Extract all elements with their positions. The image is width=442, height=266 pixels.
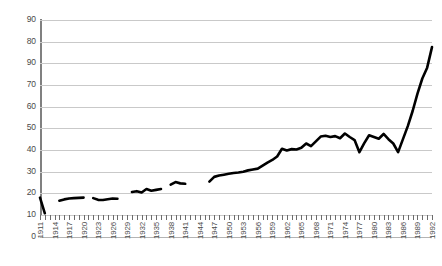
series-segment [209, 47, 432, 182]
y-axis-tick-label: 30 [0, 166, 36, 176]
x-axis-tick [413, 215, 414, 220]
x-axis-tick [427, 215, 428, 220]
x-axis-tick-label: 1989 [413, 222, 422, 239]
x-axis-tick [267, 215, 268, 220]
x-axis-tick [379, 215, 380, 220]
x-axis-tick [272, 215, 273, 220]
x-axis-tick [277, 215, 278, 220]
x-axis-tick [156, 215, 157, 220]
x-axis-tick [127, 215, 128, 220]
x-axis-tick [238, 215, 239, 220]
x-axis-tick-label: 1932 [138, 222, 147, 239]
x-axis-tick [432, 215, 433, 220]
x-axis-tick [117, 215, 118, 220]
x-axis-tick-label: 1917 [65, 222, 74, 239]
x-axis-tick [296, 215, 297, 220]
x-axis-tick [176, 215, 177, 220]
x-axis-tick [282, 215, 283, 220]
x-axis-tick [166, 215, 167, 220]
x-axis-tick [398, 215, 399, 220]
x-axis-tick [422, 215, 423, 220]
x-axis-tick-label: 1968 [312, 222, 321, 239]
x-axis-tick-label: 1983 [384, 222, 393, 239]
x-axis-tick [219, 215, 220, 220]
x-axis-tick [359, 215, 360, 220]
x-axis-tick-label: 1992 [428, 222, 437, 239]
x-axis-tick [205, 215, 206, 220]
x-axis-tick [384, 215, 385, 220]
x-axis-tick-label: 1911 [36, 222, 45, 238]
x-axis-tick [142, 215, 143, 220]
x-axis-tick-label: 1962 [283, 222, 292, 239]
x-axis-tick [180, 215, 181, 220]
x-axis-tick [50, 215, 51, 220]
x-axis-tick-label: 1947 [210, 222, 219, 239]
x-axis-tick [122, 215, 123, 220]
y-axis-tick-label: 0 [0, 231, 36, 241]
y-axis-tick-label: 90 [0, 57, 36, 67]
x-axis-tick [69, 215, 70, 220]
x-axis-tick [59, 215, 60, 220]
x-axis-tick [248, 215, 249, 220]
x-axis-tick [253, 215, 254, 220]
x-axis-tick [146, 215, 147, 220]
x-axis-tick-label: 1950 [225, 222, 234, 239]
x-axis-tick-label: 1944 [196, 222, 205, 239]
series-segment [40, 198, 45, 214]
x-axis-tick [45, 215, 46, 220]
series-segment [93, 198, 117, 200]
x-axis-tick [234, 215, 235, 220]
x-axis-tick [340, 215, 341, 220]
x-axis-tick-label: 1923 [94, 222, 103, 239]
x-axis-tick [350, 215, 351, 220]
x-axis-tick [345, 215, 346, 220]
y-axis-tick-label: 40 [0, 144, 36, 154]
x-axis-tick [151, 215, 152, 220]
x-axis-tick [321, 215, 322, 220]
x-axis-tick [79, 215, 80, 220]
y-axis-tick-label: 80 [0, 36, 36, 46]
x-axis-tick-label: 1956 [254, 222, 263, 239]
x-axis-tick [355, 215, 356, 220]
x-axis-tick [224, 215, 225, 220]
x-axis-tick [113, 215, 114, 220]
x-axis-tick [311, 215, 312, 220]
x-axis-tick [209, 215, 210, 220]
x-axis-tick-label: 1929 [123, 222, 132, 239]
x-axis-tick-label: 1953 [239, 222, 248, 239]
series-segment [132, 189, 161, 192]
x-axis-tick-label: 1935 [152, 222, 161, 239]
y-axis-tick-label: 70 [0, 79, 36, 89]
x-axis-tick [301, 215, 302, 220]
x-axis-tick [214, 215, 215, 220]
series-segment [59, 198, 83, 201]
x-axis-tick-label: 1938 [167, 222, 176, 239]
x-axis-tick [243, 215, 244, 220]
x-axis-tick [306, 215, 307, 220]
x-axis-tick [330, 215, 331, 220]
y-axis-tick-label: 10 [0, 209, 36, 219]
y-axis-tick-label: 60 [0, 101, 36, 111]
x-axis-tick [316, 215, 317, 220]
x-axis-tick-label: 1965 [297, 222, 306, 239]
x-axis-tick [263, 215, 264, 220]
y-axis-tick-label: 20 [0, 187, 36, 197]
x-axis-tick [132, 215, 133, 220]
x-axis-tick [292, 215, 293, 220]
x-axis-tick [258, 215, 259, 220]
chart-container: 908090706050403020100 191119141917192019… [0, 0, 442, 266]
y-axis-tick-label: 50 [0, 122, 36, 132]
x-axis-tick [108, 215, 109, 220]
x-axis-tick [137, 215, 138, 220]
x-axis-tick [161, 215, 162, 220]
x-axis-tick-label: 1926 [109, 222, 118, 239]
x-axis-tick [88, 215, 89, 220]
x-axis-tick-label: 1920 [80, 222, 89, 239]
x-axis-tick [171, 215, 172, 220]
x-axis-tick [335, 215, 336, 220]
x-axis-tick-label: 1986 [399, 222, 408, 239]
x-axis-tick [229, 215, 230, 220]
x-axis-tick [40, 215, 41, 220]
x-axis-tick-label: 1980 [370, 222, 379, 239]
x-axis-tick-label: 1974 [341, 222, 350, 239]
